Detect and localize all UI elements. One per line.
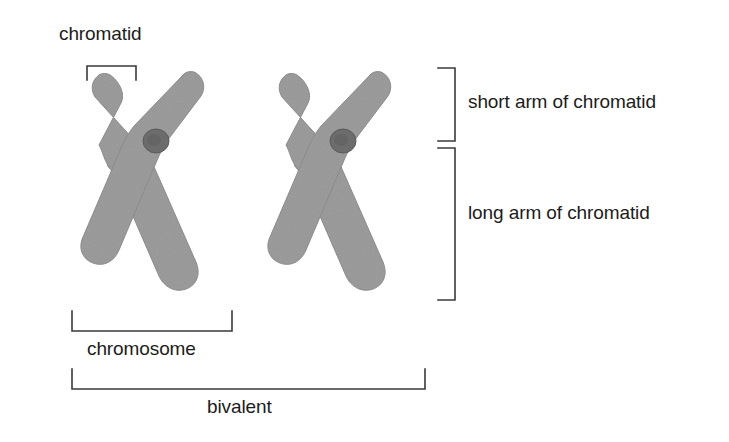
long-arm-bracket xyxy=(438,148,455,300)
bivalent-bracket xyxy=(72,369,425,389)
short-arm-bracket xyxy=(438,68,455,141)
label-bivalent: bivalent xyxy=(207,397,272,416)
label-short-arm-of-chromatid: short arm of chromatid xyxy=(468,92,656,111)
chromosome-right xyxy=(268,72,391,291)
chromosome-left xyxy=(81,72,204,291)
label-long-arm-of-chromatid: long arm of chromatid xyxy=(468,203,650,222)
chromosome-diagram: chromatid short arm of chromatid long ar… xyxy=(0,0,729,442)
centromere-left-core xyxy=(147,134,161,146)
label-chromosome: chromosome xyxy=(87,339,196,358)
label-chromatid: chromatid xyxy=(59,24,142,43)
centromere-right-core xyxy=(334,134,348,146)
chromosome-bracket xyxy=(72,311,232,331)
